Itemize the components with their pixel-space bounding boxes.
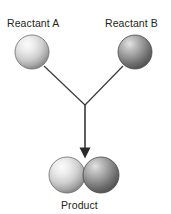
connector-line-reactant-b	[85, 66, 123, 105]
label-reactant-a: Reactant A	[7, 17, 59, 29]
connector-line-reactant-a	[44, 66, 85, 105]
sphere-reactant-a	[15, 35, 49, 69]
label-product: Product	[61, 199, 98, 211]
sphere-product-left	[49, 157, 85, 193]
diagram-canvas	[0, 0, 171, 214]
sphere-reactant-b	[118, 35, 152, 69]
reaction-arrow-head-icon	[80, 148, 91, 159]
reaction-diagram: Reactant A Reactant B Product	[0, 0, 171, 214]
label-reactant-b: Reactant B	[105, 17, 158, 29]
sphere-product-right	[83, 157, 119, 193]
